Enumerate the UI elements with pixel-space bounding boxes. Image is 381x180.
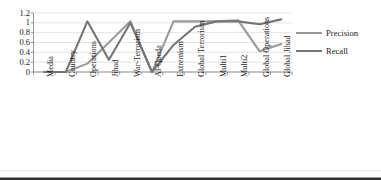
legend-label-precision: Precision [326, 29, 358, 38]
x-tick-label: Jihad [112, 60, 120, 77]
x-tick-label: Global Terrorism [198, 21, 206, 77]
x-tick-label: Global Operations [263, 17, 271, 77]
page-edge-highlight [0, 170, 381, 171]
x-tick-label: Operations [90, 41, 98, 77]
legend-item-recall: Recall [296, 42, 381, 60]
legend-item-precision: Precision [296, 24, 381, 42]
page-edge-shadow [0, 174, 381, 180]
legend-label-recall: Recall [326, 47, 348, 56]
x-tick-label: War-Terrorism [134, 29, 142, 77]
x-tick-label: Al-Qaeda [155, 45, 163, 77]
legend-swatch-precision [296, 32, 322, 35]
precision-recall-line-chart: 1.210.80.60.40.20 MediaCountryOperations… [0, 0, 381, 180]
x-tick-label: Global Jihad [284, 35, 292, 77]
chart-legend: Precision Recall [296, 24, 381, 60]
x-tick-label: Multi1 [220, 55, 228, 77]
x-tick-label: Country [69, 50, 77, 77]
legend-swatch-recall [296, 50, 322, 53]
x-tick-label: Extremism [177, 41, 185, 77]
x-tick-label: Media [47, 56, 55, 77]
x-tick-label: Multi2 [241, 55, 249, 77]
